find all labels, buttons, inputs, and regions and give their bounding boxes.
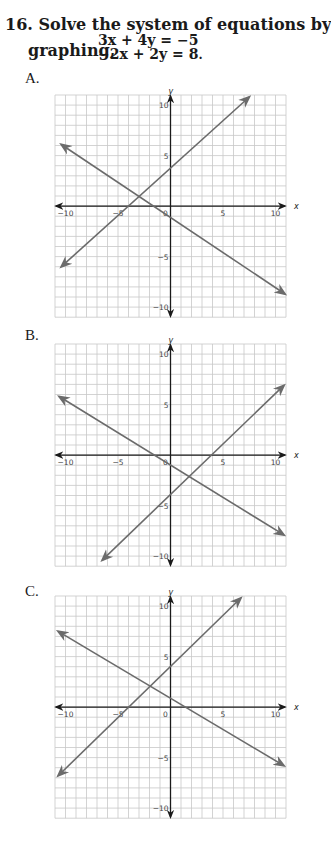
choice-a-label: A. xyxy=(25,70,40,86)
x-tick-label: 5 xyxy=(221,458,226,467)
x-tick-label: −10 xyxy=(58,710,74,719)
x-tick-label: −5 xyxy=(112,209,123,218)
equation-2: −2x + 2y = 8. xyxy=(98,47,203,62)
graph-c: xy−10−50510105−5−10 xyxy=(50,589,300,829)
question-number: 16. xyxy=(5,15,33,34)
y-axis-label: y xyxy=(168,88,174,96)
y-tick-label: 10 xyxy=(159,602,169,611)
graph-a: xy−10−50510105−5−10 xyxy=(50,88,300,328)
equation-system: 3x + 4y = −5 −2x + 2y = 8. xyxy=(98,33,203,62)
x-tick-label: 5 xyxy=(221,209,226,218)
equation-1: 3x + 4y = −5 xyxy=(98,33,203,47)
y-axis-label: y xyxy=(168,337,174,345)
y-tick-label: 5 xyxy=(164,152,169,161)
x-tick-label: 0 xyxy=(163,710,168,719)
graph-b: xy−10−50510105−5−10 xyxy=(50,337,300,577)
rising-line xyxy=(102,385,284,560)
y-tick-label: −5 xyxy=(157,253,168,262)
question-line2: graphing, 3x + 4y = −5 −2x + 2y = 8. xyxy=(28,34,321,62)
x-tick-label: 10 xyxy=(271,710,281,719)
x-axis-label: x xyxy=(293,451,299,460)
x-tick-label: −10 xyxy=(58,458,74,467)
y-tick-label: 10 xyxy=(159,350,169,359)
falling-line xyxy=(61,144,285,293)
y-axis-label: y xyxy=(168,589,174,597)
equation-2-text: −2x + 2y = 8 xyxy=(98,46,198,62)
y-tick-label: 10 xyxy=(159,101,169,110)
y-tick-label: 5 xyxy=(164,653,169,662)
choice-c-label: C. xyxy=(25,583,39,599)
y-tick-label: −10 xyxy=(153,804,169,813)
x-axis-label: x xyxy=(293,202,299,211)
question: 16. Solve the system of equations by gra… xyxy=(5,16,321,62)
choice-b-label: B. xyxy=(25,327,39,343)
rising-line xyxy=(61,97,249,267)
x-tick-label: 10 xyxy=(271,209,281,218)
x-tick-label: 10 xyxy=(271,458,281,467)
y-tick-label: −10 xyxy=(153,552,169,561)
x-tick-label: −5 xyxy=(112,458,123,467)
x-tick-label: −10 xyxy=(58,209,74,218)
x-axis-label: x xyxy=(293,703,299,712)
y-tick-label: 5 xyxy=(164,401,169,410)
x-tick-label: 5 xyxy=(221,710,226,719)
equation-trail: . xyxy=(198,48,202,62)
y-tick-label: −10 xyxy=(153,303,169,312)
y-tick-label: −5 xyxy=(157,754,168,763)
